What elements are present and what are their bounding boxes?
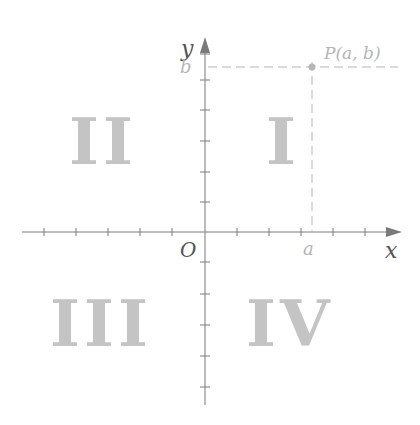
quadrant-i-label: I [266,110,300,174]
b-label: b [180,58,192,76]
quadrant-iv-label: IV [246,292,334,356]
origin-label: O [180,240,196,260]
a-label: a [303,240,314,258]
quadrant-iii-label: III [50,292,152,356]
point-p-label: P(a, b) [324,45,381,62]
axes-graphic [0,0,420,425]
quadrant-ii-label: II [69,110,137,174]
y-axis-arrow-icon [200,37,210,53]
x-axis-arrow-icon [386,227,402,237]
x-axis-label: x [385,240,397,262]
point-p-dot [309,64,316,71]
coordinate-plane-diagram: y x O b a P(a, b) II I III IV [0,0,420,425]
